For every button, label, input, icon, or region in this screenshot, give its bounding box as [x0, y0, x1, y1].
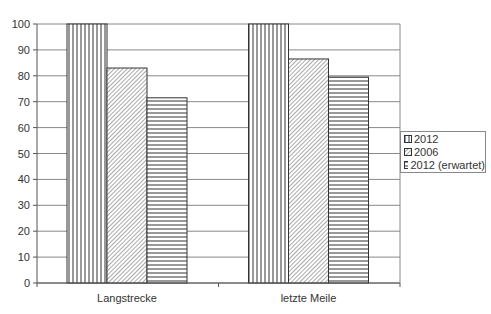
y-tick-label: 0 [24, 277, 30, 289]
x-category-label: Langstrecke [97, 292, 157, 304]
y-tick-label: 70 [18, 96, 30, 108]
bar-2012 [67, 24, 107, 283]
bar-2006 [289, 59, 329, 283]
y-tick-label: 10 [18, 251, 30, 263]
legend-item-2006: 2006 [401, 145, 485, 158]
legend: 2012 2006 2012 (erwartet) [400, 131, 486, 173]
y-tick-label: 60 [18, 122, 30, 134]
diagonal-hatch-swatch-icon [404, 148, 412, 156]
legend-item-2012: 2012 [401, 132, 485, 145]
legend-label: 2012 [414, 133, 438, 145]
y-tick-label: 80 [18, 70, 30, 82]
x-category-label: letzte Meile [281, 292, 337, 304]
horizontal-lines-swatch-icon [404, 161, 408, 169]
vertical-lines-swatch-icon [404, 135, 412, 143]
legend-label: 2012 (erwartet) [410, 159, 485, 171]
legend-item-2012-erwartet: 2012 (erwartet) [401, 158, 485, 171]
y-tick-label: 40 [18, 173, 30, 185]
y-tick-label: 100 [12, 18, 30, 30]
bar-2006 [107, 68, 147, 283]
y-tick-label: 90 [18, 44, 30, 56]
y-tick-label: 20 [18, 225, 30, 237]
x-axis-labels: Langstreckeletzte Meile [97, 292, 336, 304]
bar-2012-erwartet- [329, 77, 369, 283]
bar-2012 [249, 24, 289, 283]
y-tick-label: 50 [18, 148, 30, 160]
y-axis-ticks: 0102030405060708090100 [12, 18, 37, 289]
legend-label: 2006 [414, 146, 438, 158]
y-tick-label: 30 [18, 199, 30, 211]
bar-2012-erwartet- [147, 98, 187, 283]
